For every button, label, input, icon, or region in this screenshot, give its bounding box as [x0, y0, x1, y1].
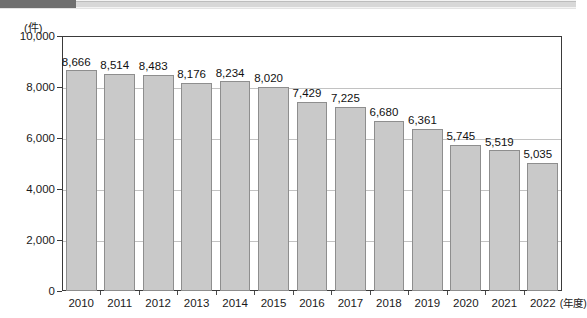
x-axis-tick-mark — [447, 291, 448, 295]
bar-slot: 8,666 — [66, 36, 97, 291]
x-axis-unit-label: (年度) — [560, 298, 587, 309]
x-axis-tick-mark — [100, 291, 101, 295]
y-axis-tick-label: 6,000 — [26, 132, 55, 144]
bar[interactable] — [412, 129, 443, 291]
x-axis-tick-label: 2015 — [254, 298, 292, 310]
bar-slot: 7,429 — [297, 36, 328, 291]
bar-value-label: 5,745 — [446, 131, 475, 143]
x-axis-tick-mark — [524, 291, 525, 295]
bar[interactable] — [297, 102, 328, 291]
bar-value-label: 8,666 — [62, 57, 91, 69]
bar-slot: 8,483 — [143, 36, 174, 291]
bar-slot: 6,361 — [412, 36, 443, 291]
bar-slot: 5,745 — [450, 36, 481, 291]
x-axis-tick-mark — [485, 291, 486, 295]
y-axis-tick-label: 8,000 — [26, 81, 55, 93]
bar-slot: 8,234 — [220, 36, 251, 291]
bar-value-label: 8,234 — [216, 68, 245, 80]
bar[interactable] — [527, 163, 558, 291]
x-axis-tick-label: 2012 — [139, 298, 177, 310]
x-axis-tick-mark — [370, 291, 371, 295]
bars-container: 8,6668,5148,4838,1768,2348,0207,4297,225… — [62, 36, 562, 291]
bar-value-label: 5,035 — [523, 149, 552, 161]
x-axis-tick-label: 2014 — [216, 298, 254, 310]
bar-value-label: 8,020 — [254, 73, 283, 85]
bar[interactable] — [258, 87, 289, 292]
bar-slot: 8,514 — [104, 36, 135, 291]
page-top-artifact-band — [0, 0, 576, 9]
y-axis-tick-label: 0 — [49, 285, 55, 297]
x-axis-tick-label: 2013 — [177, 298, 215, 310]
x-axis-tick-label: 2022 — [524, 298, 562, 310]
x-axis-tick-mark — [177, 291, 178, 295]
bar-slot: 5,519 — [489, 36, 520, 291]
bar[interactable] — [374, 121, 405, 291]
x-axis-tick-mark — [331, 291, 332, 295]
bar-value-label: 7,225 — [331, 93, 360, 105]
bar-value-label: 6,680 — [370, 107, 399, 119]
bar-value-label: 5,519 — [485, 137, 514, 149]
bar-value-label: 6,361 — [408, 115, 437, 127]
bar-slot: 7,225 — [335, 36, 366, 291]
x-axis: (年度) 20102011201220132014201520162017201… — [62, 291, 562, 318]
bar-value-label: 8,483 — [139, 61, 168, 73]
x-axis-tick-label: 2020 — [447, 298, 485, 310]
x-axis-tick-mark — [408, 291, 409, 295]
bar[interactable] — [489, 150, 520, 291]
x-axis-tick-label: 2017 — [331, 298, 369, 310]
y-axis-tick-label: 2,000 — [26, 234, 55, 246]
x-axis-tick-label: 2018 — [370, 298, 408, 310]
bar-value-label: 7,429 — [293, 88, 322, 100]
bar[interactable] — [143, 75, 174, 291]
x-axis-tick-mark — [293, 291, 294, 295]
x-axis-tick-label: 2019 — [408, 298, 446, 310]
x-axis-tick-mark — [139, 291, 140, 295]
bar-value-label: 8,514 — [100, 60, 129, 72]
x-axis-tick-label: 2016 — [293, 298, 331, 310]
bar-slot: 5,035 — [527, 36, 558, 291]
x-axis-tick-label: 2021 — [485, 298, 523, 310]
bar-chart: (件) 02,0004,0006,0008,00010,000 8,6668,5… — [0, 9, 576, 318]
bar[interactable] — [335, 107, 366, 291]
x-axis-tick-label: 2010 — [62, 298, 100, 310]
artifact-light-segment — [76, 1, 576, 7]
bar-slot: 8,176 — [181, 36, 212, 291]
bar-slot: 6,680 — [374, 36, 405, 291]
x-axis-tick-mark — [216, 291, 217, 295]
bar[interactable] — [104, 74, 135, 291]
bar[interactable] — [66, 70, 97, 291]
y-axis-tick-label: 10,000 — [20, 30, 55, 42]
x-axis-tick-label: 2011 — [100, 298, 138, 310]
artifact-dark-segment — [0, 0, 76, 8]
bar[interactable] — [450, 145, 481, 291]
x-axis-tick-mark — [254, 291, 255, 295]
bar[interactable] — [220, 81, 251, 291]
bar[interactable] — [181, 83, 212, 291]
y-axis-tick-label: 4,000 — [26, 183, 55, 195]
bar-value-label: 8,176 — [177, 69, 206, 81]
bar-slot: 8,020 — [258, 36, 289, 291]
